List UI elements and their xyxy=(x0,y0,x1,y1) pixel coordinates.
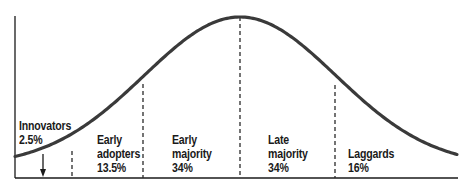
label-early-adopters-line2: adopters xyxy=(97,147,140,161)
innovators-arrow-head-icon xyxy=(40,169,46,177)
label-early-majority: Early majority 34% xyxy=(172,133,212,175)
label-late-majority-line2: majority xyxy=(268,147,308,161)
label-innovators-percent: 2.5% xyxy=(19,133,71,147)
label-laggards-name: Laggards xyxy=(348,147,394,161)
label-laggards: Laggards 16% xyxy=(348,147,394,175)
label-early-adopters: Early adopters 13.5% xyxy=(97,133,140,175)
label-innovators: Innovators 2.5% xyxy=(19,119,71,147)
label-early-adopters-percent: 13.5% xyxy=(97,161,140,175)
label-late-majority-percent: 34% xyxy=(268,161,308,175)
label-laggards-percent: 16% xyxy=(348,161,394,175)
label-early-majority-line1: Early xyxy=(172,133,212,147)
label-late-majority: Late majority 34% xyxy=(268,133,308,175)
label-early-adopters-line1: Early xyxy=(97,133,140,147)
bell-curve-chart xyxy=(0,0,470,190)
label-early-majority-percent: 34% xyxy=(172,161,212,175)
label-early-majority-line2: majority xyxy=(172,147,212,161)
label-innovators-name: Innovators xyxy=(19,119,71,133)
label-late-majority-line1: Late xyxy=(268,133,308,147)
bell-curve xyxy=(15,17,457,156)
